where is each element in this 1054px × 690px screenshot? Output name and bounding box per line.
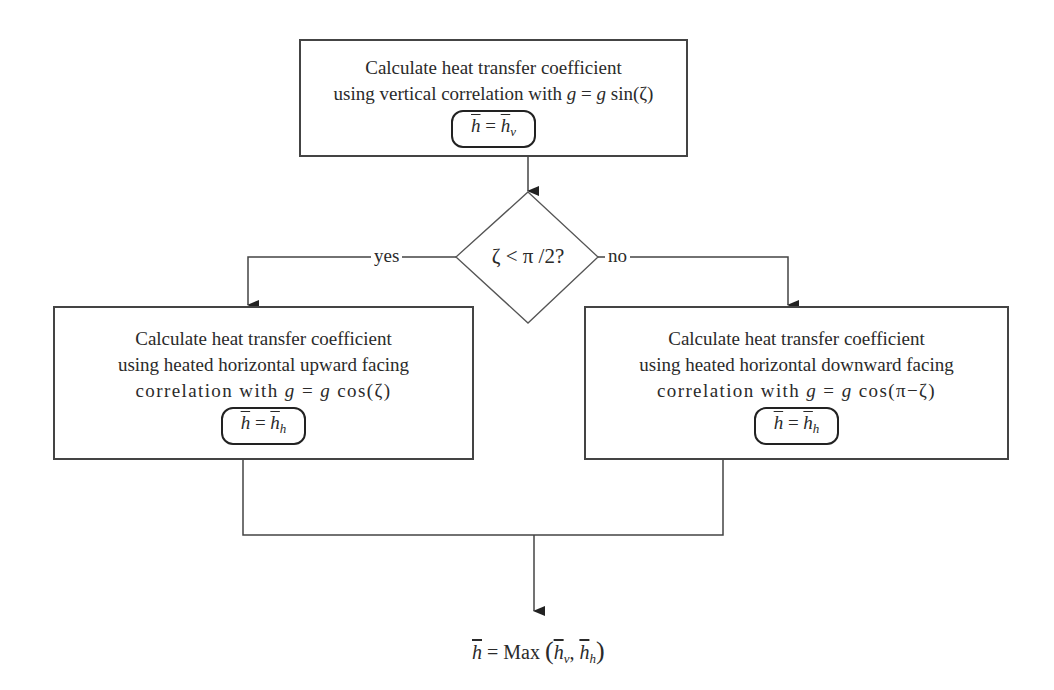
left-box-line3: correlation with g = g cos(ζ) bbox=[55, 378, 472, 404]
top-box-line2: using vertical correlation with g = g si… bbox=[301, 81, 686, 107]
result-hh-pill-right: h = hh bbox=[754, 407, 840, 445]
left-box-line2: using heated horizontal upward facing bbox=[55, 352, 472, 378]
right-box-line1: Calculate heat transfer coefficient bbox=[586, 326, 1007, 352]
upward-facing-box: Calculate heat transfer coefficient usin… bbox=[53, 306, 474, 460]
right-box-line3: correlation with g = g cos(π−ζ) bbox=[586, 378, 1007, 404]
top-box-line1: Calculate heat transfer coefficient bbox=[301, 55, 686, 81]
left-box-line1: Calculate heat transfer coefficient bbox=[55, 326, 472, 352]
yes-label: yes bbox=[371, 246, 402, 266]
downward-facing-box: Calculate heat transfer coefficient usin… bbox=[584, 306, 1009, 460]
right-box-line2: using heated horizontal downward facing bbox=[586, 352, 1007, 378]
result-hv-pill: h = hv bbox=[451, 110, 536, 148]
final-result-formula: h = Max (hv, hh) bbox=[472, 636, 605, 667]
merge-connector bbox=[243, 459, 723, 535]
vertical-correlation-box: Calculate heat transfer coefficient usin… bbox=[299, 39, 688, 157]
result-hh-pill-left: h = hh bbox=[221, 407, 307, 445]
decision-text: ζ < π /2? bbox=[458, 244, 598, 269]
arrow-yes-branch bbox=[248, 257, 456, 305]
no-label: no bbox=[605, 246, 630, 266]
